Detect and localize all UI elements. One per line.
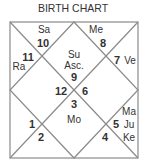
house-4: 4	[102, 131, 109, 143]
house-1: 1	[29, 118, 35, 130]
planet-label: Ma	[122, 106, 136, 117]
house-number: 7	[114, 54, 120, 66]
house-number: 1	[29, 118, 35, 130]
house-5: 5 Ma Ju Ke	[113, 106, 136, 143]
house-3: 3 Mo	[67, 98, 81, 125]
planet-label: Mo	[67, 114, 81, 125]
house-8: Me 8	[89, 24, 106, 49]
house-2: 2	[38, 131, 44, 143]
house-number: 3	[71, 98, 77, 110]
house-number: 10	[37, 37, 49, 49]
planet-label: Ke	[123, 132, 136, 143]
house-number: 2	[38, 131, 44, 143]
house-number: 9	[71, 71, 77, 83]
house-number: 6	[82, 85, 88, 97]
planet-label: Ra	[13, 61, 26, 72]
house-10: Sa 10	[37, 24, 51, 49]
house-number: 5	[113, 118, 119, 130]
planet-label: Sa	[38, 24, 51, 35]
house-number: 12	[55, 85, 67, 97]
house-number: 8	[100, 37, 106, 49]
birth-chart-diagram: Su Asc. 9 Sa 10 11 Ra 12 1 2 3 Mo 4 5 Ma…	[0, 0, 146, 166]
planet-label: Su	[68, 49, 80, 60]
house-6: 6	[82, 85, 88, 97]
planet-label: Asc.	[64, 60, 83, 71]
house-12: 12	[55, 85, 67, 97]
planet-label: Me	[89, 24, 103, 35]
house-7: 7 Ve	[114, 54, 136, 66]
planet-label: Ju	[124, 119, 135, 130]
house-9: Su Asc. 9	[64, 49, 83, 83]
planet-label: Ve	[124, 55, 136, 66]
house-number: 4	[102, 131, 109, 143]
